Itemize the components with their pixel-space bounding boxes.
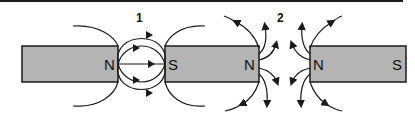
pole-label-n-2a: N bbox=[244, 56, 255, 73]
pole-label-s-1: S bbox=[168, 56, 178, 73]
pole-label-s-2: S bbox=[392, 56, 402, 73]
pole-label-n-1: N bbox=[104, 56, 115, 73]
panel-2-label: 2 bbox=[277, 11, 284, 25]
pole-label-n-2b: N bbox=[313, 56, 324, 73]
magnet-field-diagram: 1 N S 2 N N S bbox=[0, 0, 415, 125]
panel-1-label: 1 bbox=[136, 11, 143, 25]
